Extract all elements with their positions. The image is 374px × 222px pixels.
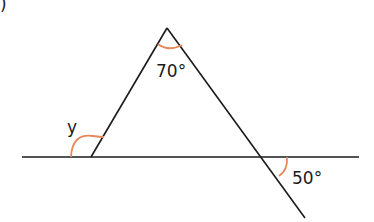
apex-angle-label: 70°: [156, 61, 186, 81]
exterior-left-angle-arc: [71, 136, 104, 157]
exterior-right-angle-label: 50°: [292, 168, 322, 188]
exterior-right-angle-arc: [279, 157, 287, 176]
exterior-left-angle-label: y: [67, 117, 77, 137]
part-marker: ): [0, 0, 7, 14]
right-side-line: [167, 28, 305, 218]
triangle-diagram: ) 70° y 50°: [0, 0, 374, 222]
